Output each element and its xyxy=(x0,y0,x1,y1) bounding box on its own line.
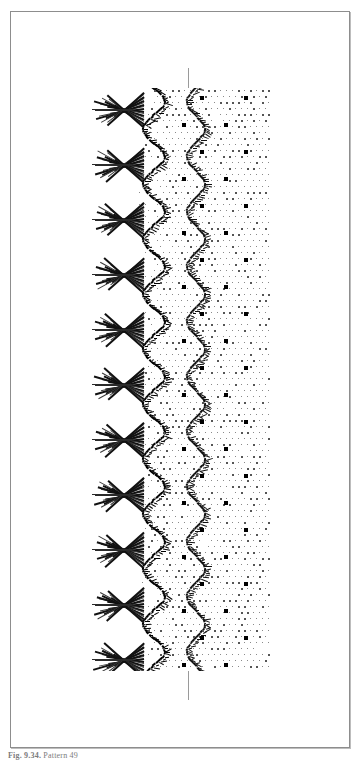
halftone-dot xyxy=(232,654,233,655)
halftone-dot xyxy=(190,510,191,511)
halftone-dot xyxy=(247,240,248,241)
halftone-dot xyxy=(154,618,155,619)
halftone-dot xyxy=(223,360,224,361)
halftone-dot xyxy=(262,222,263,223)
halftone-dot xyxy=(214,510,215,511)
halftone-dot xyxy=(208,534,209,535)
halftone-dot xyxy=(190,378,191,379)
halftone-dot xyxy=(145,216,146,217)
halftone-dot xyxy=(250,342,252,344)
halftone-dot xyxy=(247,648,248,649)
halftone-dot xyxy=(244,546,245,547)
halftone-dot xyxy=(160,426,161,427)
halftone-dot xyxy=(178,594,180,596)
halftone-dot xyxy=(208,150,209,151)
accent-dot xyxy=(244,204,248,208)
halftone-dot xyxy=(169,540,170,541)
halftone-dot xyxy=(265,540,266,541)
halftone-dot xyxy=(193,564,195,566)
halftone-dot xyxy=(265,204,266,205)
halftone-dot xyxy=(166,186,167,187)
halftone-dot xyxy=(193,468,195,470)
halftone-dot xyxy=(259,144,260,145)
halftone-dot xyxy=(190,306,191,307)
halftone-dot xyxy=(190,390,191,391)
halftone-dot xyxy=(262,150,263,151)
halftone-dot xyxy=(244,198,245,199)
accent-dot xyxy=(200,204,204,208)
halftone-dot xyxy=(193,648,194,649)
halftone-dot xyxy=(157,564,158,565)
halftone-dot xyxy=(244,630,246,632)
halftone-dot xyxy=(262,474,263,475)
halftone-dot xyxy=(166,498,168,500)
halftone-dot xyxy=(238,522,239,523)
halftone-dot xyxy=(217,348,218,349)
halftone-dot xyxy=(238,438,239,439)
halftone-dot xyxy=(181,348,182,349)
halftone-dot xyxy=(229,384,230,385)
halftone-dot xyxy=(184,318,185,319)
halftone-dot xyxy=(235,468,236,469)
halftone-dot xyxy=(226,366,227,367)
halftone-dot xyxy=(262,654,263,655)
halftone-dot xyxy=(238,162,239,163)
halftone-dot xyxy=(259,252,260,253)
halftone-dot xyxy=(214,162,215,163)
halftone-dot xyxy=(178,246,179,247)
halftone-dot xyxy=(169,336,170,337)
halftone-dot xyxy=(193,348,194,349)
halftone-dot xyxy=(151,540,153,542)
halftone-dot xyxy=(262,186,263,187)
halftone-dot xyxy=(196,522,197,523)
halftone-dot xyxy=(160,102,161,103)
halftone-dot xyxy=(232,546,234,548)
halftone-dot xyxy=(175,564,176,565)
halftone-dot xyxy=(238,126,240,128)
halftone-dot xyxy=(244,186,245,187)
halftone-dot xyxy=(226,474,227,475)
halftone-dot xyxy=(178,666,180,668)
halftone-dot xyxy=(172,618,174,620)
halftone-dot xyxy=(268,102,269,103)
halftone-dot xyxy=(235,540,236,541)
halftone-dot xyxy=(241,492,243,494)
halftone-dot xyxy=(259,552,260,553)
halftone-dot xyxy=(268,342,269,343)
halftone-dot xyxy=(187,384,188,385)
halftone-dot xyxy=(160,546,162,548)
halftone-dot xyxy=(229,204,230,205)
halftone-dot xyxy=(268,246,269,247)
halftone-dot xyxy=(226,426,227,427)
halftone-dot xyxy=(169,432,170,433)
halftone-dot xyxy=(223,372,225,374)
halftone-dot xyxy=(202,666,203,667)
halftone-dot xyxy=(250,390,251,391)
halftone-dot xyxy=(217,636,219,638)
halftone-dot xyxy=(214,558,216,560)
halftone-dot xyxy=(241,384,242,385)
halftone-dot xyxy=(217,408,218,409)
halftone-dot xyxy=(214,90,216,92)
halftone-dot xyxy=(226,270,227,271)
halftone-dot xyxy=(187,540,189,542)
halftone-dot xyxy=(214,378,215,379)
halftone-dot xyxy=(139,192,140,193)
halftone-dot xyxy=(214,486,215,487)
halftone-dot xyxy=(211,228,213,230)
halftone-dot xyxy=(175,336,176,337)
halftone-dot xyxy=(184,306,185,307)
halftone-dot xyxy=(214,174,215,175)
halftone-dot xyxy=(199,444,201,446)
halftone-dot xyxy=(187,240,189,242)
halftone-dot xyxy=(247,504,248,505)
halftone-dot xyxy=(178,186,179,187)
halftone-dot xyxy=(199,288,200,289)
halftone-dot xyxy=(265,108,266,109)
halftone-dot xyxy=(214,282,215,283)
halftone-dot xyxy=(166,366,167,367)
halftone-dot xyxy=(220,354,222,356)
halftone-dot xyxy=(184,138,185,139)
halftone-dot xyxy=(166,510,167,511)
halftone-dot xyxy=(232,390,233,391)
